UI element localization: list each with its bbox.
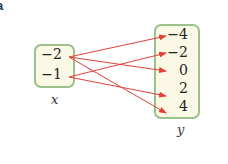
arrow-icon	[69, 57, 166, 71]
arrow-icon	[69, 36, 166, 57]
arrow-icon	[69, 77, 166, 96]
mapping-arrows	[0, 0, 228, 164]
